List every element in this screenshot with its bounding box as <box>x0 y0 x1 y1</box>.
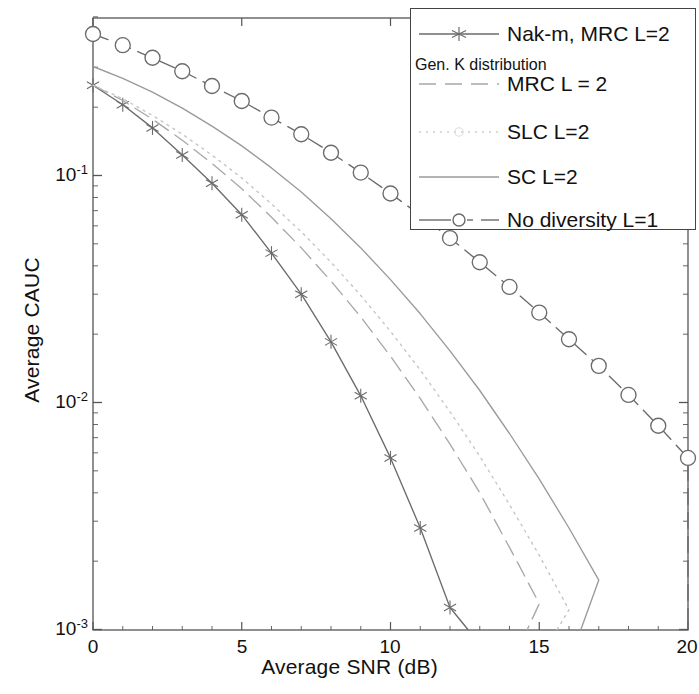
marker-circle <box>591 358 606 373</box>
marker-asterisk <box>325 335 337 349</box>
marker-circle <box>175 64 190 79</box>
legend-label-mrc: MRC L = 2 <box>507 72 607 96</box>
y-axis-label: Average CAUC <box>20 180 44 480</box>
legend-entry-nak-m[interactable]: Nak-m, MRC L=2 <box>411 21 697 47</box>
legend-marker-dotted <box>411 119 507 145</box>
marker-circle <box>264 110 279 125</box>
marker-circle <box>145 50 160 65</box>
figure-chart: 10-1 10-2 10-3 0 5 10 15 20 Average SNR … <box>0 0 699 694</box>
marker-circle <box>383 186 398 201</box>
marker-asterisk <box>384 451 396 465</box>
marker-circle <box>562 332 577 347</box>
legend-label-sc: SC L=2 <box>507 165 578 189</box>
legend-label-slc: SLC L=2 <box>507 120 589 144</box>
marker-circle <box>532 305 547 320</box>
marker-asterisk <box>146 121 158 135</box>
marker-circle <box>472 255 487 270</box>
legend-entry-mrc[interactable]: MRC L = 2 <box>411 71 697 97</box>
legend-label-nak-m: Nak-m, MRC L=2 <box>507 22 670 46</box>
marker-circle <box>294 127 309 142</box>
legend-entry-no-diversity[interactable]: No diversity L=1 <box>411 207 697 233</box>
legend-marker-circle <box>411 207 507 233</box>
marker-circle <box>234 93 249 108</box>
marker-circle <box>502 279 517 294</box>
marker-circle <box>324 145 339 160</box>
marker-circle <box>681 450 696 465</box>
legend-marker-asterisk <box>411 21 507 47</box>
marker-circle <box>621 387 636 402</box>
legend-marker-solid <box>411 164 507 190</box>
marker-circle <box>651 418 666 433</box>
legend-entry-sc[interactable]: SC L=2 <box>411 164 697 190</box>
legend-label-no-diversity: No diversity L=1 <box>507 208 658 232</box>
marker-asterisk <box>414 521 426 535</box>
legend-marker-dashed <box>411 71 507 97</box>
legend-entry-slc[interactable]: SLC L=2 <box>411 119 697 145</box>
legend: Gen. K distribution Nak-m, MRC L=2 <box>410 8 696 230</box>
marker-circle <box>115 38 130 53</box>
marker-circle <box>353 165 368 180</box>
x-axis-label: Average SNR (dB) <box>0 655 699 679</box>
marker-circle <box>86 27 101 42</box>
marker-asterisk <box>355 389 367 403</box>
marker-circle <box>205 78 220 93</box>
